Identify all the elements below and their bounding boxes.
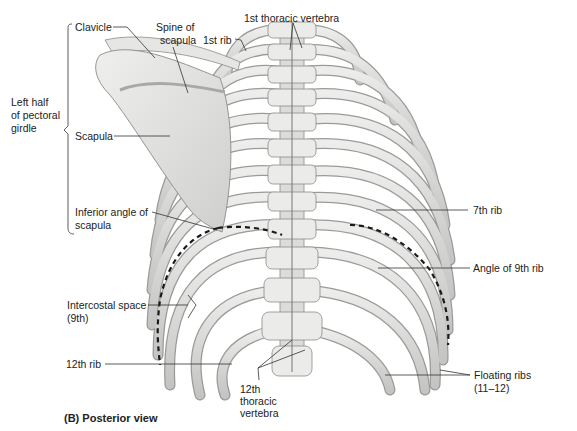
label-12th-vertebra-line3: vertebra	[240, 407, 279, 419]
label-spine-of-scapula-line2: scapula	[160, 34, 196, 46]
posterior-thorax-figure: Clavicle Spine of scapula 1st thoracic v…	[0, 0, 577, 431]
label-inferior-angle-line2: scapula	[75, 219, 111, 231]
label-12th-vertebra-line2: thoracic	[240, 395, 277, 407]
label-inferior-angle-line1: Inferior angle of	[75, 206, 148, 218]
label-clavicle: Clavicle	[75, 21, 112, 33]
label-12th-rib: 12th rib	[66, 358, 101, 370]
label-intercostal-space-line2: (9th)	[67, 312, 89, 324]
label-1st-thoracic-vertebra: 1st thoracic vertebra	[244, 12, 339, 24]
label-angle-9th-rib: Angle of 9th rib	[473, 262, 544, 274]
label-left-half-line1: Left half	[11, 96, 48, 108]
label-intercostal-space-line1: Intercostal space	[67, 299, 146, 311]
label-left-half-line3: girdle	[11, 122, 37, 134]
figure-caption: (B) Posterior view	[64, 412, 158, 424]
label-12th-vertebra-line1: 12th	[240, 383, 260, 395]
label-floating-ribs-line2: (11–12)	[474, 382, 509, 394]
label-left-half-line2: of pectoral	[11, 109, 60, 121]
label-1st-rib: 1st rib	[203, 34, 232, 46]
label-scapula: Scapula	[75, 130, 113, 142]
label-spine-of-scapula-line1: Spine of	[156, 21, 195, 33]
label-floating-ribs-line1: Floating ribs	[474, 369, 531, 381]
label-7th-rib: 7th rib	[473, 204, 502, 216]
vertebral-column	[262, 22, 322, 376]
